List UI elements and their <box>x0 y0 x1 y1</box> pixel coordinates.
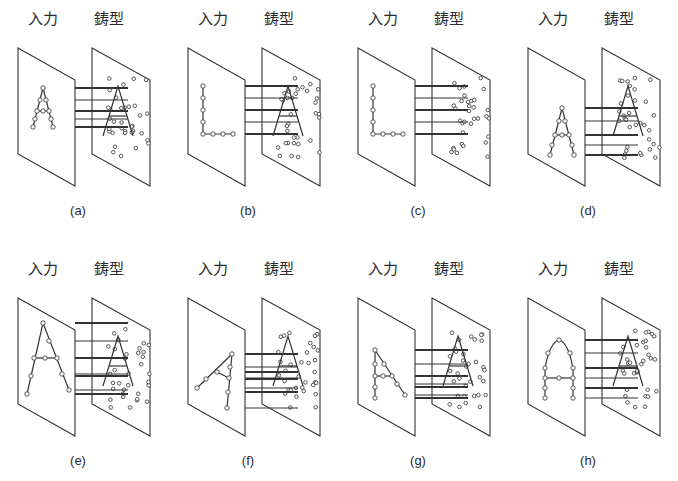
template-dot <box>643 405 647 409</box>
template-dot <box>623 372 627 376</box>
input-dot <box>543 386 547 390</box>
input-plane <box>18 48 75 186</box>
template-dot <box>625 358 629 362</box>
input-dot <box>371 84 375 88</box>
input-dot <box>49 117 53 121</box>
template-dot <box>479 76 483 80</box>
input-dot <box>373 362 377 366</box>
input-dot <box>568 351 572 355</box>
template-dot <box>292 141 296 145</box>
input-dot <box>543 366 547 370</box>
template-dot <box>640 362 644 366</box>
input-dot <box>571 366 575 370</box>
input-dot <box>560 133 564 137</box>
template-dot <box>627 111 631 115</box>
input-dot <box>204 377 208 381</box>
input-dot <box>543 376 547 380</box>
input-dot <box>390 374 394 378</box>
template-dot <box>634 123 638 127</box>
input-dot <box>373 385 377 389</box>
input-plane <box>18 298 75 436</box>
panel-caption: (b) <box>240 203 256 218</box>
template-dot <box>625 149 629 153</box>
template-dot <box>646 395 650 399</box>
template-label: 鋳型 <box>434 260 464 278</box>
input-dot <box>571 376 575 380</box>
template-dot <box>473 338 477 342</box>
input-dot <box>211 132 215 136</box>
panel-a: 入力鋳型(a) <box>18 10 150 218</box>
template-dot <box>477 393 481 397</box>
template-dot <box>452 380 456 384</box>
template-dot <box>142 350 146 354</box>
template-dot <box>472 394 476 398</box>
template-dot <box>470 335 474 339</box>
template-dot <box>296 155 300 159</box>
template-dot <box>112 120 116 124</box>
template-dot <box>292 136 296 140</box>
input-dot <box>371 108 375 112</box>
template-dot <box>134 146 138 150</box>
input-dot <box>47 109 51 113</box>
template-dot <box>293 77 297 81</box>
template-dot <box>317 112 321 116</box>
input-dot <box>371 120 375 124</box>
input-dot <box>25 392 29 396</box>
template-dot <box>480 333 484 337</box>
template-dot <box>120 121 124 125</box>
template-dot <box>277 374 281 378</box>
input-dot <box>195 386 199 390</box>
template-dot <box>652 114 656 118</box>
template-dot <box>628 125 632 129</box>
template-dot <box>314 381 318 385</box>
template-dot <box>653 358 657 362</box>
input-dot <box>32 356 36 360</box>
template-dot <box>639 151 643 155</box>
template-dot <box>288 331 292 335</box>
template-dot <box>455 151 459 155</box>
input-dot <box>391 132 395 136</box>
template-dot <box>127 105 131 109</box>
template-dot <box>472 106 476 110</box>
template-dot <box>462 144 466 148</box>
input-dot <box>35 109 39 113</box>
template-dot <box>147 343 151 347</box>
input-dot <box>563 119 567 123</box>
input-plane <box>188 48 245 186</box>
template-dot <box>461 359 465 363</box>
template-dot <box>484 141 488 145</box>
input-dot <box>550 143 554 147</box>
input-dot <box>225 406 229 410</box>
template-dot <box>109 398 113 402</box>
template-dot <box>148 372 152 376</box>
template-dot <box>456 372 460 376</box>
template-dot <box>295 395 299 399</box>
template-dot <box>113 368 117 372</box>
input-dot <box>201 96 205 100</box>
input-label: 入力 <box>368 10 398 28</box>
template-dot <box>111 381 115 385</box>
template-dot <box>294 92 298 96</box>
template-dot <box>644 331 648 335</box>
template-dot <box>644 339 648 343</box>
input-dot <box>373 348 377 352</box>
input-dot <box>373 374 377 378</box>
input-label: 入力 <box>538 10 568 28</box>
template-plane <box>432 48 490 186</box>
template-dot <box>285 124 289 128</box>
template-dot <box>652 142 656 146</box>
template-dot <box>448 369 452 373</box>
template-dot <box>314 392 318 396</box>
template-dot <box>314 101 318 105</box>
template-dot <box>305 89 309 93</box>
input-dot <box>67 388 71 392</box>
template-dot <box>658 146 662 150</box>
template-dot <box>316 349 320 353</box>
template-dot <box>482 87 486 91</box>
input-dot <box>371 96 375 100</box>
template-dot <box>623 156 627 160</box>
template-dot <box>644 100 648 104</box>
template-dot <box>642 359 646 363</box>
panel-c: 入力鋳型(c) <box>358 10 491 218</box>
template-dot <box>448 403 452 407</box>
